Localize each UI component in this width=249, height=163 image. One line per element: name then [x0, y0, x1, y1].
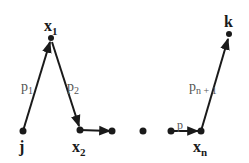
node-j [20, 128, 27, 135]
label-pn: p [177, 118, 183, 132]
node-intermediate-a [109, 128, 116, 135]
label-xn: xn [193, 138, 207, 158]
node-x2 [77, 127, 84, 134]
label-x2: x2 [72, 138, 86, 158]
node-xn [198, 128, 205, 135]
node-intermediate-b [140, 128, 147, 135]
node-intermediate-c [168, 128, 175, 135]
node-k [226, 31, 232, 37]
edge-x2-a [80, 130, 110, 131]
label-k: k [224, 13, 233, 30]
label-j: j [18, 138, 24, 156]
label-p2: p2 [67, 79, 79, 96]
label-pn1: pn + 1 [189, 79, 217, 96]
path-diagram: j x1 x2 xn k p1 p2 p pn + 1 [0, 0, 249, 163]
label-p1: p1 [21, 79, 33, 96]
edge-x1-x2 [52, 42, 79, 126]
label-x1: x1 [44, 17, 58, 37]
